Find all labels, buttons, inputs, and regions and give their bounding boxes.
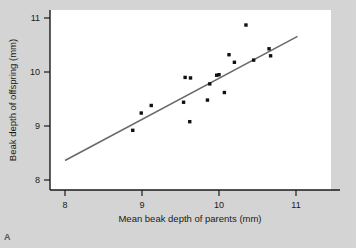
data-point: [267, 47, 270, 50]
panel-label: A: [4, 232, 11, 242]
data-point: [182, 101, 185, 104]
data-point: [183, 76, 186, 79]
data-point: [252, 58, 255, 61]
y-axis-tick-labels: 891011: [30, 13, 40, 185]
y-tick-label: 9: [35, 121, 40, 131]
y-tick-label: 11: [31, 13, 40, 23]
data-point: [188, 120, 191, 123]
data-point: [131, 129, 134, 132]
x-tick-label: 11: [291, 200, 300, 210]
x-tick-label: 10: [214, 200, 224, 210]
figure-panel: 891011 891011 Mean beak depth of parents…: [0, 0, 356, 248]
plot-area-background: [50, 10, 331, 190]
scatter-plot: 891011 891011 Mean beak depth of parents…: [0, 0, 356, 248]
x-axis-title: Mean beak depth of parents (mm): [118, 213, 261, 224]
data-point: [206, 98, 209, 101]
x-axis-tick-labels: 891011: [62, 200, 300, 210]
y-tick-label: 10: [30, 67, 40, 77]
x-tick-label: 8: [62, 200, 67, 210]
data-point: [189, 76, 192, 79]
x-axis-ticks: [65, 190, 296, 196]
data-point: [208, 82, 211, 85]
data-point: [150, 104, 153, 107]
y-axis-ticks: [44, 18, 50, 180]
data-point: [269, 54, 272, 57]
data-point: [223, 91, 226, 94]
y-axis-title: Beak depth of offspring (mm): [7, 39, 18, 161]
data-point: [140, 111, 143, 114]
data-point: [227, 53, 230, 56]
data-point: [233, 61, 236, 64]
x-tick-label: 9: [139, 200, 144, 210]
data-point: [244, 23, 247, 26]
y-tick-label: 8: [35, 175, 40, 185]
data-point: [217, 73, 220, 76]
